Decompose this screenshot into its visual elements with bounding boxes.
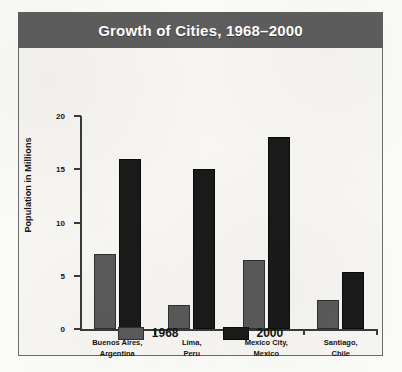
- y-axis-title-text: Population in Millions: [23, 137, 33, 232]
- bar-2000-2: [268, 137, 290, 329]
- legend-item-2000: 2000: [223, 326, 284, 340]
- x-axis-category-label: Lima,Peru: [182, 337, 202, 359]
- y-axis-tick: 15: [74, 168, 81, 170]
- legend-label-2000: 2000: [257, 326, 284, 340]
- chart-legend: 19682000: [18, 326, 383, 340]
- chart-title-bar: Growth of Cities, 1968–2000: [18, 12, 383, 48]
- bar-2000-3: [342, 272, 364, 330]
- x-axis-category-label: Buenos Aires,Argentina: [92, 337, 142, 359]
- x-axis-category-label: Mexico City,Mexico: [245, 337, 288, 359]
- legend-swatch-1968: [118, 327, 144, 340]
- x-axis-category-line: Mexico: [245, 348, 288, 359]
- legend-item-1968: 1968: [118, 326, 179, 340]
- x-axis-category-line: Argentina: [92, 348, 142, 359]
- legend-swatch-2000: [223, 327, 249, 340]
- chart-title: Growth of Cities, 1968–2000: [98, 22, 303, 39]
- chart-page: Growth of Cities, 1968–2000 Population i…: [0, 0, 402, 372]
- bar-1968-0: [94, 254, 116, 329]
- plot-area: 05101520Buenos Aires,ArgentinaLima,PeruM…: [18, 48, 383, 356]
- y-axis-tick-label: 5: [61, 271, 65, 280]
- y-axis-title: Population in Millions: [20, 120, 36, 250]
- bar-1968-2: [243, 260, 265, 329]
- x-axis-category-label: Santiago,Chile: [324, 337, 358, 359]
- bar-2000-1: [193, 169, 215, 329]
- bar-1968-3: [317, 300, 339, 329]
- y-axis-tick-label: 10: [56, 218, 65, 227]
- x-axis-category-line: Chile: [324, 348, 358, 359]
- legend-label-1968: 1968: [152, 326, 179, 340]
- y-axis-tick-label: 20: [56, 112, 65, 121]
- y-axis-tick: 10: [74, 222, 81, 224]
- y-axis-tick: 5: [74, 275, 81, 277]
- axis-area: 05101520Buenos Aires,ArgentinaLima,PeruM…: [80, 116, 390, 329]
- x-axis-category-line: Peru: [182, 348, 202, 359]
- y-axis-tick: 20: [74, 115, 81, 117]
- y-axis-tick-label: 15: [56, 165, 65, 174]
- bar-2000-0: [119, 159, 141, 329]
